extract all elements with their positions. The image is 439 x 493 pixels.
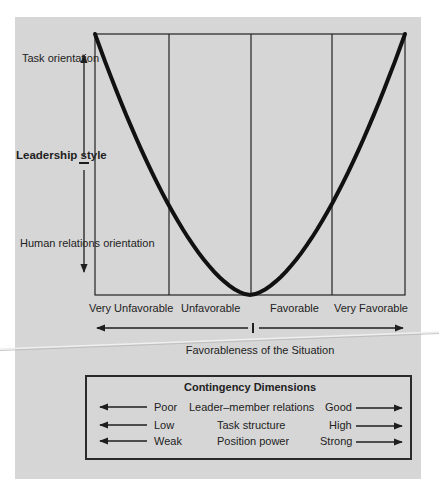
contingency-title: Contingency Dimensions [150, 381, 350, 394]
row-position-power-dimension: Position power [217, 435, 289, 448]
y-top-label: Task orientation [22, 52, 76, 65]
x-category-unfavorable: Unfavorable [181, 302, 240, 315]
x-category-favorable: Favorable [270, 302, 319, 315]
row-position-power-left: Weak [154, 435, 182, 448]
plot-frame [95, 34, 405, 295]
row-leader-member-left: Poor [154, 401, 177, 414]
row-leader-member-right: Good [325, 401, 352, 414]
y-bottom-label: Human relations orientation [20, 237, 78, 250]
row-task-structure-dimension: Task structure [217, 419, 285, 432]
x-category-very-favorable: Very Favorable [334, 302, 408, 315]
y-axis-title: Leadership style [16, 149, 82, 162]
row-position-power-right: Strong [320, 435, 352, 448]
row-task-structure-left: Low [154, 419, 174, 432]
row-task-structure-right: High [329, 419, 352, 432]
x-category-very-unfavorable: Very Unfavorable [89, 302, 173, 315]
leadership-curve [95, 34, 405, 295]
x-axis-title: Favorableness of the Situation [150, 344, 370, 357]
row-leader-member-dimension: Leader–member relations [189, 401, 314, 414]
